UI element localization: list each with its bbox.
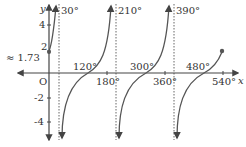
y-tick-label-neg2: -2 (34, 92, 44, 103)
y-tick-label-4: 4 (39, 19, 45, 30)
curve-branches (49, 6, 222, 138)
x-tick-label-480: 480° (186, 61, 210, 72)
labels: y x O 4 2 -2 -4 ≈ 1.73 30° 210° 390° 120… (6, 3, 244, 127)
y-axis-label: y (39, 3, 46, 14)
branch-2 (62, 6, 111, 138)
y-tick-label-2: 2 (41, 41, 47, 52)
asymptote-label-390: 390° (176, 5, 200, 16)
x-tick-label-180: 180° (96, 76, 120, 87)
x-axis-label: x (238, 75, 244, 86)
asymptote-label-30: 30° (61, 5, 79, 16)
y-intercept-label: ≈ 1.73 (6, 52, 40, 63)
end-point (220, 49, 224, 53)
tangent-graph: y x O 4 2 -2 -4 ≈ 1.73 30° 210° 390° 120… (0, 0, 246, 147)
x-tick-label-540: 540° (212, 76, 236, 87)
branch-1 (49, 6, 56, 51)
asymptote-label-210: 210° (118, 5, 142, 16)
asymptotes (59, 4, 174, 140)
origin-label: O (39, 76, 47, 87)
branch-3 (119, 6, 169, 138)
x-tick-label-360: 360° (153, 76, 177, 87)
x-tick-label-120: 120° (73, 61, 97, 72)
y-tick-label-neg4: -4 (34, 116, 44, 127)
x-tick-label-300: 300° (130, 61, 154, 72)
start-point (47, 50, 51, 54)
